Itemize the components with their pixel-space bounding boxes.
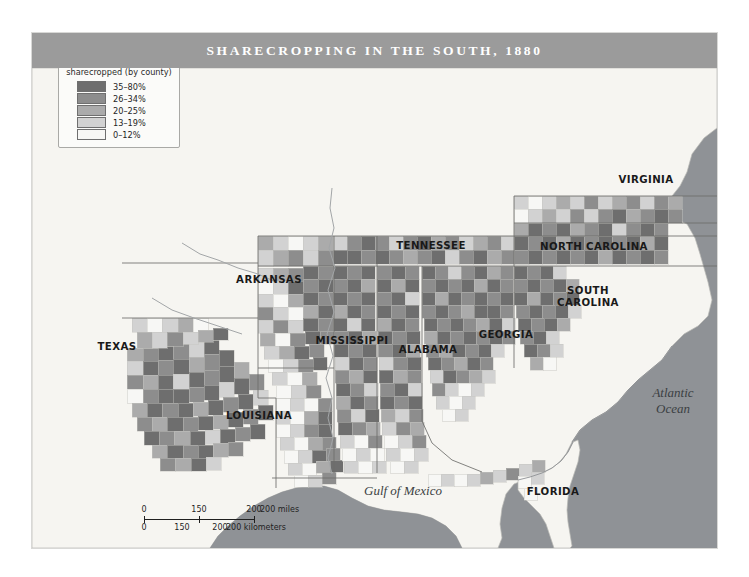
legend-swatch xyxy=(77,105,106,116)
state-label-alabama: ALABAMA xyxy=(399,344,458,356)
legend-entry: 0–12% xyxy=(77,129,173,140)
scalebar-tick xyxy=(144,516,145,523)
legend-entry-list: 35–80%26–34%20–25%13–19%0–12% xyxy=(65,81,173,140)
scalebar-km-tick-label: 0 xyxy=(141,523,146,532)
legend-swatch xyxy=(77,93,106,104)
scalebar-miles-tick-label: 0 xyxy=(141,505,146,514)
state-label-georgia: GEORGIA xyxy=(479,329,534,341)
scalebar-miles-tick-label: 150 xyxy=(191,505,206,514)
map-title-band: SHARECROPPING IN THE SOUTH, 1880 xyxy=(32,33,717,68)
water-label-atlantic-ocean: AtlanticOcean xyxy=(652,385,693,416)
legend-swatch xyxy=(77,129,106,140)
state-label-north-carolina: NORTH CAROLINA xyxy=(540,241,648,253)
legend-label: 13–19% xyxy=(113,118,146,128)
counties-tennessee xyxy=(258,236,529,266)
water-label-gulf-of-mexico: Gulf of Mexico xyxy=(364,483,442,499)
state-label-virginia: VIRGINIA xyxy=(618,174,673,186)
legend-label: 26–34% xyxy=(113,94,146,104)
legend-entry: 35–80% xyxy=(77,81,173,92)
scalebar-tick xyxy=(199,516,200,523)
state-label-texas: TEXAS xyxy=(98,341,137,353)
legend-label: 20–25% xyxy=(113,106,146,116)
legend-swatch xyxy=(77,81,106,92)
map-title: SHARECROPPING IN THE SOUTH, 1880 xyxy=(206,43,542,59)
page-background: SHARECROPPING IN THE SOUTH, 1880 xyxy=(0,0,749,577)
state-label-south-carolina: SOUTHCAROLINA xyxy=(557,285,619,309)
counties-virginia xyxy=(514,196,682,223)
legend-swatch xyxy=(77,117,106,128)
map-scalebar: 0150200200 miles 0150200200 kilometers xyxy=(144,505,304,534)
scalebar-km-unit: 200 kilometers xyxy=(226,523,286,532)
state-label-mississippi: MISSISSIPPI xyxy=(315,335,388,347)
scalebar-tick xyxy=(254,516,255,523)
legend-label: 35–80% xyxy=(113,82,146,92)
state-label-florida: FLORIDA xyxy=(527,486,580,498)
scalebar-miles-labels: 0150200200 miles xyxy=(144,505,304,516)
scalebar-kilometers-labels: 0150200200 kilometers xyxy=(144,523,304,534)
scalebar-km-tick-label: 150 xyxy=(174,523,189,532)
legend-label: 0–12% xyxy=(113,130,141,140)
state-label-louisiana: LOUISIANA xyxy=(226,410,292,422)
state-label-tennessee: TENNESSEE xyxy=(396,240,466,252)
scalebar-rule xyxy=(144,516,304,523)
legend-entry: 26–34% xyxy=(77,93,173,104)
state-label-arkansas: ARKANSAS xyxy=(236,274,302,286)
scalebar-miles-unit: 200 miles xyxy=(260,505,299,514)
legend-title-line2: sharecropped (by county) xyxy=(65,67,173,78)
legend-entry: 13–19% xyxy=(77,117,173,128)
map-figure: SHARECROPPING IN THE SOUTH, 1880 xyxy=(32,33,717,548)
legend-entry: 20–25% xyxy=(77,105,173,116)
